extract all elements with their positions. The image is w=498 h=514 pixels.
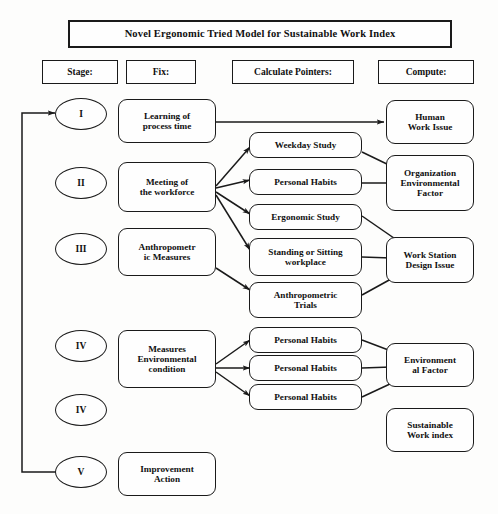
- stage-node-2: II: [55, 167, 107, 199]
- pointer-node-personal-habits-3-label: Personal Habits: [271, 363, 340, 373]
- pointer-node-personal-habits-2: Personal Habits: [249, 327, 362, 353]
- pointer-node-anthropometric-trials-label: Anthropometric Trials: [271, 290, 341, 311]
- arrow-meeting-to-personal1: [216, 180, 250, 188]
- column-header-compute: Compute:: [378, 60, 474, 84]
- arrow-measures-to-ph1: [216, 340, 250, 364]
- stage-node-1-label: I: [76, 109, 86, 120]
- stage-node-6: V: [55, 456, 107, 488]
- column-header-stage-label: Stage:: [64, 67, 95, 78]
- fix-node-improvement-action: Improvement Action: [118, 452, 216, 496]
- fix-node-improvement-action-label: Improvement Action: [137, 464, 196, 485]
- pointer-node-standing-or-sitting-workplace-label: Standing or Sitting workplace: [265, 247, 345, 268]
- fix-node-anthropometric-measures-label: Anthropometr ic Measures: [136, 242, 199, 263]
- fix-node-measures-environmental-condition-label: Measures Environmental condition: [134, 344, 199, 375]
- stage-node-3: III: [55, 233, 107, 265]
- fix-node-learning-of-process-time-label: Learning of process time: [140, 111, 195, 132]
- arrow-anthro-to-trials: [216, 268, 250, 290]
- stage-node-4: IV: [55, 330, 107, 362]
- stage-node-6-label: V: [75, 467, 88, 478]
- column-header-calculate-pointers-label: Calculate Pointers:: [251, 67, 335, 78]
- stage-node-5: IV: [55, 394, 107, 426]
- fix-node-learning-of-process-time: Learning of process time: [118, 99, 216, 143]
- arrow-meeting-to-weekday: [216, 147, 250, 186]
- pointer-node-weekday-study: Weekday Study: [249, 132, 362, 158]
- fix-node-anthropometric-measures: Anthropometr ic Measures: [118, 228, 216, 276]
- compute-node-organization-environmental-factor: Organization Environmental Factor: [386, 155, 474, 211]
- arrow-meeting-to-standing: [216, 195, 250, 250]
- pointer-node-personal-habits-1: Personal Habits: [249, 169, 362, 195]
- pointer-node-standing-or-sitting-workplace: Standing or Sitting workplace: [249, 238, 362, 276]
- pointer-node-personal-habits-3: Personal Habits: [249, 355, 362, 381]
- column-header-fix-label: Fix:: [150, 67, 172, 78]
- pointer-node-personal-habits-4: Personal Habits: [249, 384, 362, 410]
- feedback-loop-arrow: [22, 113, 58, 472]
- column-header-compute-label: Compute:: [403, 67, 450, 78]
- compute-node-work-station-design-issue: Work Station Design Issue: [386, 237, 474, 283]
- stage-node-4-label: IV: [73, 341, 90, 352]
- diagram-title: Novel Ergonomic Tried Model for Sustaina…: [68, 20, 452, 48]
- fix-node-meeting-of-the-workforce-label: Meeting of the workforce: [137, 177, 198, 198]
- pointer-node-personal-habits-4-label: Personal Habits: [271, 392, 340, 402]
- column-header-fix: Fix:: [126, 60, 196, 84]
- arrow-measures-to-ph3: [216, 372, 250, 396]
- stage-node-1: I: [55, 98, 107, 130]
- pointer-node-anthropometric-trials: Anthropometric Trials: [249, 282, 362, 318]
- compute-node-environmental-factor-label: Environment al Factor: [401, 355, 459, 376]
- arrow-meeting-to-ergonomic: [216, 192, 250, 214]
- stage-node-2-label: II: [74, 178, 87, 189]
- pointer-node-personal-habits-1-label: Personal Habits: [271, 177, 340, 187]
- compute-node-work-station-design-issue-label: Work Station Design Issue: [401, 250, 460, 271]
- stage-node-5-label: IV: [73, 405, 90, 416]
- compute-node-sustainable-work-index-label: Sustainable Work index: [404, 420, 456, 441]
- compute-node-sustainable-work-index: Sustainable Work index: [386, 408, 474, 452]
- column-header-calculate-pointers: Calculate Pointers:: [232, 60, 354, 84]
- stage-node-3-label: III: [72, 244, 89, 255]
- fix-node-meeting-of-the-workforce: Meeting of the workforce: [118, 162, 216, 212]
- diagram-canvas: Novel Ergonomic Tried Model for Sustaina…: [0, 0, 498, 514]
- pointer-node-ergonomic-study: Ergonomic Study: [249, 204, 362, 230]
- pointer-node-weekday-study-label: Weekday Study: [272, 140, 340, 150]
- fix-node-measures-environmental-condition: Measures Environmental condition: [118, 330, 216, 388]
- compute-node-environmental-factor: Environment al Factor: [386, 343, 474, 387]
- pointer-node-personal-habits-2-label: Personal Habits: [271, 335, 340, 345]
- column-header-stage: Stage:: [42, 60, 118, 84]
- pointer-node-ergonomic-study-label: Ergonomic Study: [268, 212, 343, 222]
- compute-node-organization-environmental-factor-label: Organization Environmental Factor: [397, 168, 462, 199]
- diagram-title-label: Novel Ergonomic Tried Model for Sustaina…: [122, 28, 399, 40]
- compute-node-human-work-issue-label: Human Work Issue: [405, 112, 456, 133]
- compute-node-human-work-issue: Human Work Issue: [386, 100, 474, 144]
